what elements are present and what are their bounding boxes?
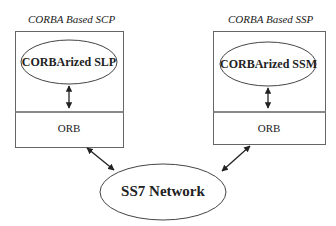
scp-network-arrow — [87, 148, 114, 170]
ss7-network-label: SS7 Network — [100, 183, 226, 200]
ssp-orb-label: ORB — [213, 122, 325, 134]
ssp-network-arrow — [222, 146, 250, 171]
scp-orb-label: ORB — [15, 122, 123, 134]
ssp-title: CORBA Based SSP — [228, 13, 313, 25]
slp-label: CORBArized SLP — [21, 55, 117, 70]
scp-title: CORBA Based SCP — [28, 13, 115, 25]
ssm-label: CORBArized SSM — [220, 57, 316, 72]
